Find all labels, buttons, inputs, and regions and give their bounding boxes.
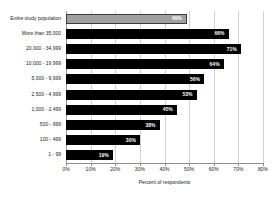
bar-row: 64% — [66, 59, 263, 69]
x-axis-ticks: 0%10%20%30%40%50%60%70%80% — [66, 163, 263, 175]
category-label: 500 - 999 — [40, 122, 61, 127]
bar-value-label: 71% — [227, 47, 241, 52]
bar: 49% — [66, 14, 187, 24]
bar-series: 49%66%71%64%56%53%45%38%30%19% — [66, 11, 263, 163]
bar-value-label: 38% — [146, 123, 160, 128]
bar-value-label: 30% — [126, 138, 140, 143]
bar: 38% — [66, 120, 160, 130]
category-label: 100 - 499 — [40, 137, 61, 142]
x-tick-label: 30% — [135, 167, 145, 172]
x-tick-label: 0% — [62, 167, 69, 172]
bar-value-label: 66% — [215, 31, 229, 36]
bar-row: 71% — [66, 44, 263, 54]
bar: 53% — [66, 90, 197, 100]
x-tick-label: 10% — [86, 167, 96, 172]
bar-row: 49% — [66, 14, 263, 24]
bar: 19% — [66, 150, 113, 160]
x-tick-label: 80% — [258, 167, 268, 172]
bar-row: 30% — [66, 135, 263, 145]
bar: 56% — [66, 74, 204, 84]
bar-chart: Entire study populationMore than 35,0002… — [0, 0, 274, 197]
category-axis-labels: Entire study populationMore than 35,0002… — [0, 11, 64, 163]
plot-area: 49%66%71%64%56%53%45%38%30%19% — [66, 11, 263, 163]
bar: 71% — [66, 44, 241, 54]
bar: 66% — [66, 29, 229, 39]
x-tick-label: 50% — [184, 167, 194, 172]
bar-value-label: 53% — [182, 92, 196, 97]
bar-row: 66% — [66, 29, 263, 39]
category-label: More than 35,000 — [22, 31, 61, 36]
category-label: 5,000 - 9,999 — [32, 76, 61, 81]
bar-value-label: 49% — [172, 16, 186, 21]
x-tick-label: 40% — [159, 167, 169, 172]
bar-row: 45% — [66, 105, 263, 115]
category-label: 1,000 - 2,499 — [32, 107, 61, 112]
category-label: 10,000 - 19,999 — [26, 61, 61, 66]
bar-row: 56% — [66, 74, 263, 84]
gridline-80 — [263, 11, 264, 163]
bar: 45% — [66, 105, 177, 115]
x-tick-label: 60% — [209, 167, 219, 172]
bar-row: 38% — [66, 120, 263, 130]
bar: 64% — [66, 59, 224, 69]
category-label: 2,500 - 4,999 — [32, 92, 61, 97]
bar-row: 53% — [66, 90, 263, 100]
bar-value-label: 45% — [163, 107, 177, 112]
category-label: 1 - 99 — [48, 152, 61, 157]
bar-value-label: 19% — [99, 153, 113, 158]
bar-value-label: 56% — [190, 77, 204, 82]
x-tick-label: 70% — [233, 167, 243, 172]
bar-row: 19% — [66, 150, 263, 160]
bar-value-label: 64% — [210, 62, 224, 67]
category-label: Entire study population — [10, 16, 61, 21]
x-axis-title: Percent of respondents — [66, 180, 263, 185]
category-label: 20,000 - 34,999 — [26, 46, 61, 51]
x-tick-label: 20% — [110, 167, 120, 172]
bar: 30% — [66, 135, 140, 145]
